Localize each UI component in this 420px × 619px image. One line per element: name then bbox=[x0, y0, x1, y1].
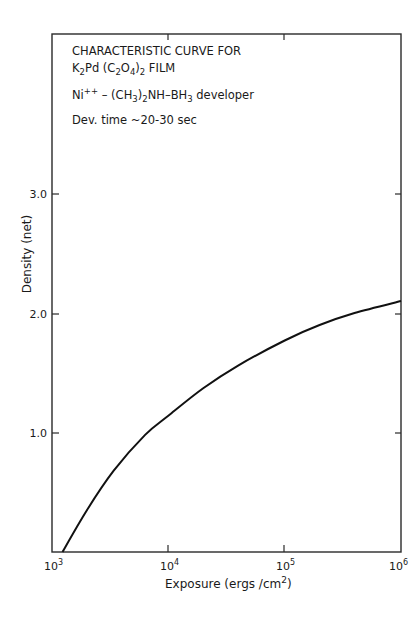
x-tick-label-1e6: 106 bbox=[389, 558, 408, 573]
y-tick-label-1: 1.0 bbox=[30, 427, 48, 440]
annotation-dev-time: Dev. time ~20-30 sec bbox=[72, 113, 197, 127]
annotation-developer: Ni++ – (CH3)2NH–BH3 developer bbox=[72, 86, 254, 104]
y-tick-label-2: 2.0 bbox=[30, 308, 48, 321]
x-tick-label-1e5: 105 bbox=[276, 558, 295, 573]
x-tick-label-1e4: 104 bbox=[160, 558, 179, 573]
x-tick-label-1e3: 103 bbox=[44, 558, 63, 573]
y-axis-label: Density (net) bbox=[20, 215, 34, 294]
x-axis-label: Exposure (ergs /cm2) bbox=[165, 575, 292, 591]
plot-frame bbox=[52, 34, 401, 552]
characteristic-curve-chart: 3.0 2.0 1.0 Density (net) 103 104 105 10… bbox=[0, 0, 420, 619]
characteristic-curve-line bbox=[63, 301, 402, 552]
annotation-title-line1: CHARACTERISTIC CURVE FOR bbox=[72, 44, 241, 58]
y-tick-label-3: 3.0 bbox=[30, 188, 48, 201]
annotation-title-line2: K2Pd (C2O4)2 FILM bbox=[72, 61, 175, 77]
